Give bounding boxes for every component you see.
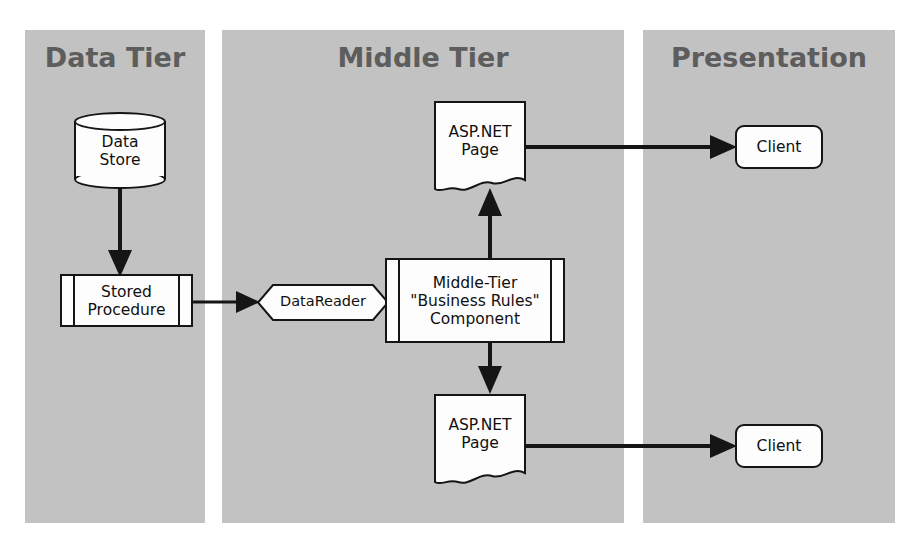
edge-storedprocedure-to-datareader (193, 291, 260, 313)
node-client-top[interactable]: Client (735, 125, 823, 169)
node-aspnet-page-bottom[interactable]: ASP.NET Page (434, 394, 526, 488)
node-client-top-label: Client (737, 138, 821, 156)
node-aspnet-page-bottom-label: ASP.NET Page (434, 416, 526, 452)
predefined-process-left-bar (73, 276, 75, 325)
node-business-rules-label: Middle-Tier "Business Rules" Component (401, 274, 549, 328)
node-client-bottom-label: Client (737, 437, 821, 455)
node-data-store[interactable]: Data Store (74, 112, 170, 190)
edge-businessrules-to-aspnetpage-top (478, 188, 502, 258)
predefined-process-right-bar (550, 260, 552, 341)
node-client-bottom[interactable]: Client (735, 424, 823, 468)
node-aspnet-page-top-label: ASP.NET Page (434, 123, 526, 159)
predefined-process-left-bar (398, 260, 400, 341)
node-data-store-label: Data Store (74, 133, 166, 169)
predefined-process-right-bar (178, 276, 180, 325)
node-aspnet-page-top[interactable]: ASP.NET Page (434, 101, 526, 195)
edge-aspnetpage-top-to-client-top (524, 135, 737, 159)
edge-aspnetpage-bottom-to-client-bottom (524, 434, 737, 458)
edge-datastore-to-storedprocedure (108, 189, 132, 277)
cylinder-top-ellipse (74, 112, 166, 131)
node-business-rules[interactable]: Middle-Tier "Business Rules" Component (385, 258, 565, 343)
diagram-canvas: Data Tier Middle Tier Presentation (0, 0, 920, 547)
edge-businessrules-to-aspnetpage-bottom (478, 343, 502, 394)
node-datareader-label: DataReader (257, 293, 389, 309)
node-stored-procedure-label: Stored Procedure (76, 283, 177, 319)
node-stored-procedure[interactable]: Stored Procedure (60, 274, 193, 327)
node-datareader[interactable]: DataReader (257, 284, 389, 321)
